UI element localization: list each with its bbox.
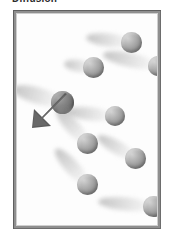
particle <box>83 57 104 78</box>
velocity-arrow <box>21 92 69 138</box>
caption-label: Diffusion <box>12 0 57 4</box>
particle <box>105 106 125 126</box>
picture-frame <box>13 10 161 229</box>
particle <box>148 56 158 76</box>
particle <box>77 174 98 195</box>
velocity-arrow-icon <box>21 92 69 138</box>
particle <box>121 32 142 53</box>
particle <box>143 196 158 217</box>
particle <box>125 148 146 169</box>
figure-canvas: Diffusion <box>0 0 172 241</box>
frame-interior <box>16 13 158 226</box>
particle <box>77 133 98 154</box>
caption-strip: Diffusion <box>0 0 172 6</box>
